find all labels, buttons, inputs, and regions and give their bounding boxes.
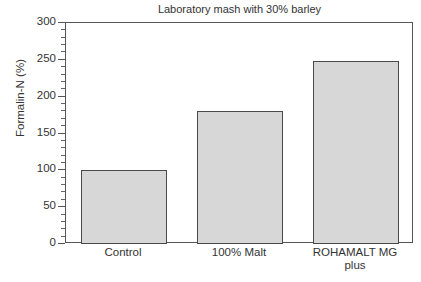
chart-title: Laboratory mash with 30% barley: [65, 2, 414, 16]
y-axis-minor-tick-mark: [61, 37, 65, 38]
y-axis-minor-tick-mark: [61, 214, 65, 215]
y-axis-minor-tick-mark: [61, 88, 65, 89]
y-axis-minor-tick-mark: [61, 155, 65, 156]
y-axis-tick-label: 150: [4, 127, 56, 138]
bar: [197, 111, 283, 244]
x-axis-tick-label-line: 100% Malt: [181, 246, 297, 259]
x-axis-tick-label: Control: [65, 246, 181, 259]
y-axis-minor-tick-mark: [61, 140, 65, 141]
y-axis-tick-mark: [58, 96, 65, 97]
y-axis-minor-tick-mark: [61, 29, 65, 30]
y-axis-minor-tick-mark: [61, 177, 65, 178]
x-axis-tick-label-line: ROHAMALT MG: [297, 246, 413, 259]
x-axis-tick-label-line: plus: [297, 259, 413, 272]
y-axis-minor-tick-mark: [61, 147, 65, 148]
x-axis-tick-label: 100% Malt: [181, 246, 297, 259]
x-axis-tick-label: ROHAMALT MGplus: [297, 246, 413, 272]
y-axis-tick-label: 200: [4, 90, 56, 101]
y-axis-tick-labels: 050100150200250300: [0, 0, 56, 282]
y-axis-minor-tick-mark: [61, 118, 65, 119]
y-axis-tick-mark: [58, 133, 65, 134]
y-axis-tick-label: 100: [4, 163, 56, 174]
y-axis-minor-tick-mark: [61, 44, 65, 45]
y-axis-tick-label: 300: [4, 16, 56, 27]
x-axis-tick-label-line: Control: [65, 246, 181, 259]
y-axis-minor-tick-mark: [61, 81, 65, 82]
y-axis-minor-tick-mark: [61, 51, 65, 52]
y-axis-minor-tick-mark: [61, 110, 65, 111]
y-axis-tick-mark: [58, 169, 65, 170]
y-axis-minor-tick-mark: [61, 66, 65, 67]
plot-area: [65, 22, 413, 243]
y-axis-minor-tick-mark: [61, 103, 65, 104]
y-axis-minor-tick-mark: [61, 162, 65, 163]
y-axis-tick-label: 50: [4, 200, 56, 211]
y-axis-tick-mark: [58, 22, 65, 23]
y-axis-minor-tick-mark: [61, 191, 65, 192]
y-axis-minor-tick-mark: [61, 228, 65, 229]
y-axis-minor-tick-mark: [61, 125, 65, 126]
y-axis-tick-label: 250: [4, 53, 56, 64]
y-axis-tick-label: 0: [4, 237, 56, 248]
y-axis-minor-tick-mark: [61, 74, 65, 75]
y-axis-tick-mark: [58, 206, 65, 207]
y-axis-minor-tick-mark: [61, 199, 65, 200]
y-axis-minor-tick-mark: [61, 236, 65, 237]
bar: [81, 170, 167, 244]
y-axis-tick-mark: [58, 243, 65, 244]
y-axis-minor-tick-mark: [61, 184, 65, 185]
y-axis-tick-mark: [58, 59, 65, 60]
y-axis-minor-tick-mark: [61, 221, 65, 222]
bar: [313, 61, 399, 244]
chart-figure: Laboratory mash with 30% barley Formalin…: [0, 0, 421, 282]
